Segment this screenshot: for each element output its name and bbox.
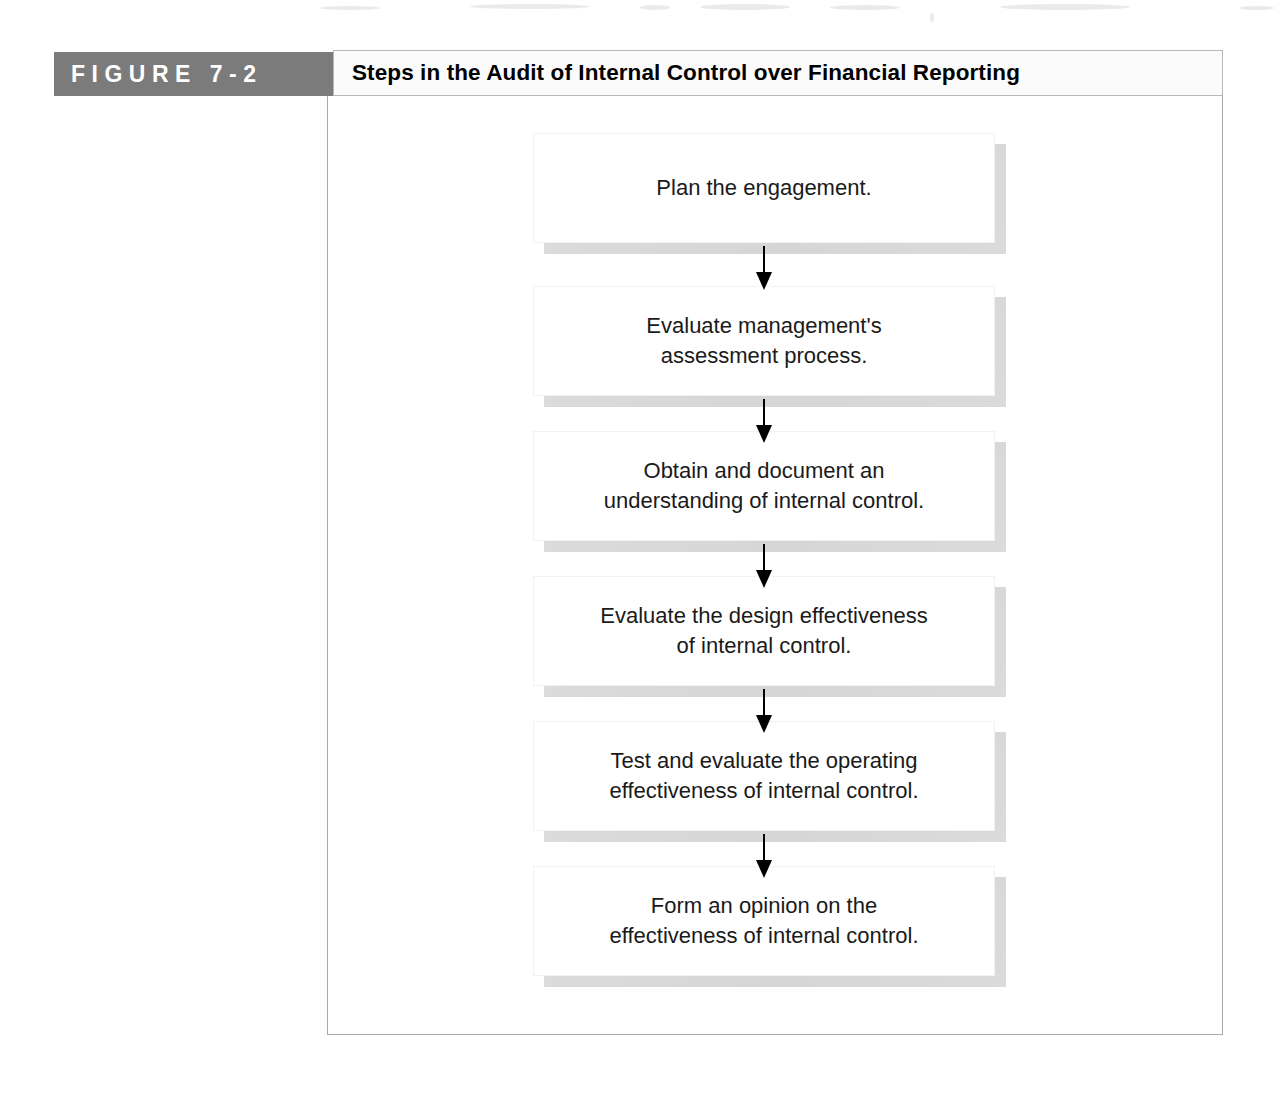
flow-step-box-1: Plan the engagement. [533,133,995,243]
flow-step-label-3: Obtain and document an understanding of … [586,456,942,516]
flow-step-label-2: Evaluate management's assessment process… [628,311,899,371]
flow-step-6: Form an opinion on the effectiveness of … [533,866,995,976]
flow-step-label-1: Plan the engagement. [638,173,889,203]
scan-artifact [0,0,1278,22]
flow-arrow-down-icon-1 [756,246,772,290]
flow-arrow-down-icon-3 [756,544,772,588]
flow-step-box-5: Test and evaluate the operating effectiv… [533,721,995,831]
flow-step-1: Plan the engagement. [533,133,995,243]
flow-step-label-4: Evaluate the design effectiveness of int… [582,601,945,661]
figure-content-frame: Plan the engagement. Evaluate management… [327,96,1223,1035]
flow-arrow-down-icon-4 [756,689,772,733]
flow-step-3: Obtain and document an understanding of … [533,431,995,541]
flow-step-2: Evaluate management's assessment process… [533,286,995,396]
flow-step-box-4: Evaluate the design effectiveness of int… [533,576,995,686]
flow-step-box-3: Obtain and document an understanding of … [533,431,995,541]
figure-number-banner: FIGURE 7-2 [54,52,333,96]
flow-step-box-6: Form an opinion on the effectiveness of … [533,866,995,976]
flow-step-label-5: Test and evaluate the operating effectiv… [592,746,937,806]
flow-step-label-6: Form an opinion on the effectiveness of … [592,891,937,951]
page-title: Steps in the Audit of Internal Control o… [352,60,1020,86]
figure-number-label: FIGURE 7-2 [71,61,263,88]
figure-title-bar: Steps in the Audit of Internal Control o… [333,50,1223,96]
flowchart: Plan the engagement. Evaluate management… [328,96,1224,1035]
flow-step-5: Test and evaluate the operating effectiv… [533,721,995,831]
flow-step-box-2: Evaluate management's assessment process… [533,286,995,396]
flow-arrow-down-icon-2 [756,399,772,443]
flow-arrow-down-icon-5 [756,834,772,878]
flow-step-4: Evaluate the design effectiveness of int… [533,576,995,686]
